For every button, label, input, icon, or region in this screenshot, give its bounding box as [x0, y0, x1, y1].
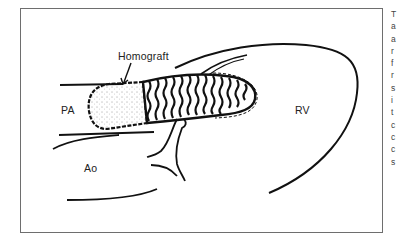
caption-letter: s	[391, 156, 403, 168]
caption-letter: T	[391, 8, 403, 20]
figure-frame	[20, 8, 383, 233]
caption-text-column: T a a r f r s i t c c c s	[391, 8, 403, 168]
coronary-branch-left	[147, 119, 177, 157]
caption-letter: i	[391, 94, 403, 106]
caption-letter: t	[391, 106, 403, 118]
pa-lower-line	[59, 132, 154, 135]
caption-letter: c	[391, 119, 403, 131]
caption-letter: s	[391, 82, 403, 94]
rv-outline	[175, 44, 358, 193]
homograft-segment	[89, 82, 147, 129]
label-pa: PA	[61, 104, 75, 116]
coronary-branch-lower	[151, 165, 177, 176]
caption-letter: a	[391, 33, 403, 45]
caption-letter: c	[391, 131, 403, 143]
rv-inner-line	[201, 55, 247, 74]
label-ao: Ao	[84, 162, 97, 174]
caption-letter: c	[391, 143, 403, 155]
label-rv: RV	[295, 104, 310, 116]
label-homograft: Homograft	[118, 50, 169, 62]
ao-lower-curve	[67, 189, 157, 200]
heart-conduit-diagram	[1, 1, 403, 244]
ao-upper-curve	[53, 135, 119, 149]
caption-letter: r	[391, 45, 403, 57]
caption-letter: r	[391, 69, 403, 81]
caption-letter: a	[391, 20, 403, 32]
caption-letter: f	[391, 57, 403, 69]
coronary-branch-right	[176, 119, 186, 181]
